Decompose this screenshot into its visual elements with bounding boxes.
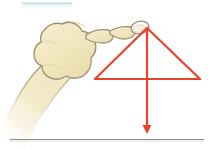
figure-container bbox=[0, 0, 208, 148]
diagram-canvas bbox=[0, 0, 208, 148]
